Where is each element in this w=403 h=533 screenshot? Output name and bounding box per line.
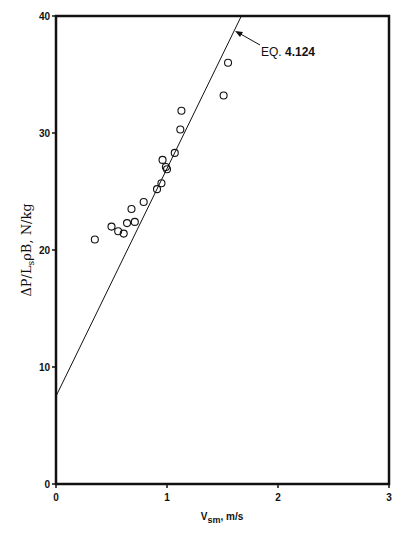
x-tick-label: 2 [275,492,281,503]
x-tick-label: 1 [164,492,170,503]
y-tick-label: 0 [44,479,50,490]
y-tick-label: 40 [39,11,51,22]
data-point [220,92,227,99]
data-point [108,223,115,230]
data-point [131,218,138,225]
x-axis-label: Vsm, m/s [201,511,244,525]
data-point [91,236,98,243]
data-point [128,206,135,213]
data-point [177,126,184,133]
x-tick-label: 3 [386,492,392,503]
data-point [124,220,131,227]
data-point [178,107,185,114]
y-tick-label: 30 [39,128,51,139]
y-tick-label: 10 [39,362,51,373]
plot-frame [56,16,389,484]
x-tick-label: 0 [53,492,59,503]
fit-line [56,16,241,396]
arrowhead-icon [235,31,243,37]
y-tick-label: 20 [39,245,51,256]
data-point [140,199,147,206]
chart: 0123010203040EQ. 4.124Vsm, m/sΔP/LsρB, N… [0,0,403,533]
annotation-label: EQ. 4.124 [261,45,315,59]
data-point [225,59,232,66]
y-axis-label: ΔP/LsρB, N/kg [19,203,36,296]
data-point [159,156,166,163]
